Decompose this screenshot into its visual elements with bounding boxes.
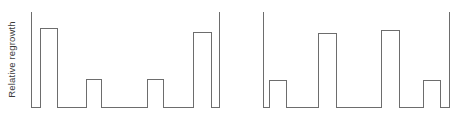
figure-panel-pair: Relative regrowth xyxy=(0,0,460,119)
bar-right-3 xyxy=(381,30,400,108)
y-axis-line-left xyxy=(31,12,32,108)
x-axis-baseline xyxy=(263,107,450,108)
y-axis-line-left xyxy=(263,12,264,108)
plot-area-left xyxy=(25,0,225,119)
chart-panel-left xyxy=(25,0,225,119)
bar-right-2 xyxy=(318,33,337,108)
chart-panel-right xyxy=(257,0,457,119)
bar-left-4 xyxy=(193,32,212,108)
bar-left-2 xyxy=(86,79,102,108)
y-axis-line-right xyxy=(219,12,220,108)
y-axis-line-right xyxy=(449,12,450,108)
y-axis-label: Relative regrowth xyxy=(0,0,22,119)
plot-area-right xyxy=(257,0,457,119)
bar-left-1 xyxy=(40,28,58,108)
x-axis-baseline xyxy=(31,107,220,108)
bar-right-4 xyxy=(423,80,441,108)
bar-left-3 xyxy=(147,79,164,108)
bar-right-1 xyxy=(269,80,287,108)
